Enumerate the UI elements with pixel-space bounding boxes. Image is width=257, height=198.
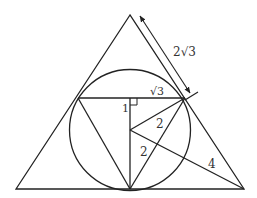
geometry-diagram: 2√3 √3 1 2 2 4 bbox=[0, 0, 257, 198]
label-side-segment: 2√3 bbox=[173, 45, 196, 59]
label-half-chord: √3 bbox=[150, 85, 164, 98]
label-center-to-chord: 1 bbox=[122, 102, 129, 115]
label-radius-lower: 2 bbox=[140, 145, 148, 159]
inner-right-side bbox=[130, 98, 185, 189]
right-angle-mark bbox=[130, 98, 137, 105]
label-radius-upper: 2 bbox=[156, 117, 164, 131]
label-center-to-vertex: 4 bbox=[208, 157, 216, 171]
dimension-tick bbox=[185, 92, 198, 100]
